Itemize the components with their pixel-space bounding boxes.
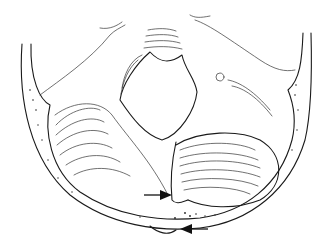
- outer-skull-wall: [21, 33, 311, 229]
- foramen-magnum: [120, 52, 197, 140]
- anatomical-illustration: [0, 0, 331, 244]
- right-petrous-ridge: [190, 15, 295, 71]
- left-cerebellar-fossa: [55, 104, 168, 195]
- left-fossa-hatching: [56, 108, 130, 176]
- bone-texture-dots: [29, 84, 298, 219]
- right-petrous-hatching: [216, 73, 272, 116]
- skull-base-drawing: [0, 0, 331, 244]
- external-occipital-protuberance: [150, 226, 176, 233]
- arrow-right-indicator: [144, 190, 172, 200]
- right-fossa-hatching: [180, 143, 260, 194]
- internal-occipital-crest: [171, 142, 188, 203]
- arrow-left-indicator: [180, 224, 208, 234]
- left-petrous-ridge: [40, 22, 125, 95]
- clivus-hatching: [121, 29, 182, 94]
